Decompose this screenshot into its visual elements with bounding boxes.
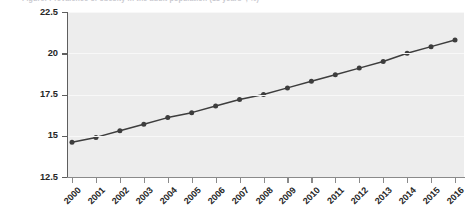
x-tick-mark (216, 178, 217, 183)
data-point[interactable]: 2012: 19.1 (357, 66, 362, 71)
y-tick-mark (62, 53, 67, 54)
gridline-22-5 (68, 12, 464, 13)
x-tick-mark (455, 178, 456, 183)
data-point[interactable]: 2016: 20.8 (453, 38, 458, 43)
data-point[interactable]: 2003: 15.7 (141, 122, 146, 127)
obesity-prevalence-line-chart: Prevalence of obesity in the adult popul… (0, 0, 470, 216)
y-tick-label: 17.5 (18, 90, 58, 99)
data-point[interactable]: 2013: 19.5 (381, 59, 386, 64)
x-tick-mark (335, 178, 336, 183)
x-tick-mark (431, 178, 432, 183)
data-point[interactable]: 2002: 15.3 (117, 128, 122, 133)
y-tick-label: 15 (18, 131, 58, 140)
gridline-20 (68, 53, 464, 54)
data-point[interactable]: 2009: 17.9 (285, 85, 290, 90)
x-tick-mark (311, 178, 312, 183)
x-tick-mark (287, 178, 288, 183)
y-tick-mark (62, 136, 67, 137)
x-tick-mark (383, 178, 384, 183)
x-tick-mark (144, 178, 145, 183)
data-point[interactable]: 2015: 20.4 (429, 44, 434, 49)
x-tick-mark (168, 178, 169, 183)
x-tick-mark (192, 178, 193, 183)
y-tick-mark (62, 177, 67, 178)
data-point[interactable]: 2006: 16.8 (213, 104, 218, 109)
data-point[interactable]: 2004: 16.1 (165, 115, 170, 120)
x-tick-mark (407, 178, 408, 183)
data-point[interactable]: 2011: 18.7 (333, 72, 338, 77)
x-axis-spine (67, 177, 465, 178)
gridline-15 (68, 136, 464, 137)
plot-area: 2000: 14.62001: 14.92002: 15.32003: 15.7… (68, 12, 464, 177)
x-tick-mark (359, 178, 360, 183)
x-tick-mark (120, 178, 121, 183)
y-axis-spine (67, 12, 68, 178)
data-point[interactable]: 2010: 18.3 (309, 79, 314, 84)
x-tick-mark (96, 178, 97, 183)
x-tick-mark (240, 178, 241, 183)
x-tick-mark (264, 178, 265, 183)
series-line (72, 40, 455, 142)
data-point[interactable]: 2000: 14.6 (70, 140, 75, 145)
x-tick-mark (72, 178, 73, 183)
gridline-17-5 (68, 95, 464, 96)
y-tick-mark (62, 12, 67, 13)
y-tick-mark (62, 95, 67, 96)
y-tick-label: 20 (18, 49, 58, 58)
y-tick-label: 12.5 (18, 173, 58, 182)
data-point[interactable]: 2005: 16.4 (189, 110, 194, 115)
y-tick-label: 22.5 (18, 8, 58, 17)
data-point[interactable]: 2007: 17.2 (237, 97, 242, 102)
